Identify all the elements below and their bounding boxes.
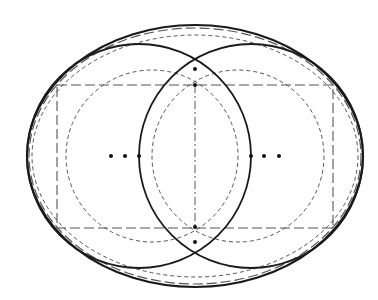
- geometric-construction-figure: [0, 0, 378, 300]
- point-dot: [109, 154, 113, 158]
- point-dot: [193, 240, 197, 244]
- point-dot: [249, 154, 253, 158]
- point-dot: [262, 154, 266, 158]
- point-dot: [123, 154, 127, 158]
- point-dot: [193, 225, 197, 229]
- point-dot: [277, 154, 281, 158]
- diagram-canvas: [0, 0, 378, 300]
- point-dot: [137, 154, 141, 158]
- point-dot: [193, 67, 197, 71]
- point-dot: [193, 83, 197, 87]
